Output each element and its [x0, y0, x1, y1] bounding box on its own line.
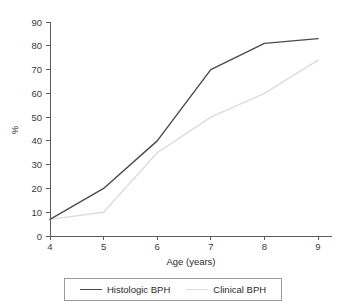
chart-container: 0102030405060708090 456789 Age (years) %…: [0, 0, 346, 307]
legend-entry[interactable]: Clinical BPH: [186, 284, 266, 295]
x-tick-label: 8: [262, 241, 267, 252]
legend-line-swatch: [80, 289, 102, 290]
x-tick-label: 7: [208, 241, 213, 252]
y-tick-label: 0: [37, 231, 42, 242]
x-tick-label: 6: [155, 241, 160, 252]
x-axis-title: Age (years): [166, 256, 215, 267]
x-tick-label: 5: [101, 241, 106, 252]
legend-label: Histologic BPH: [107, 284, 170, 295]
data-series-group: [50, 39, 318, 220]
line-chart-plot: 0102030405060708090 456789 Age (years) %: [0, 0, 346, 307]
y-axis-ticks: 0102030405060708090: [31, 17, 50, 242]
y-tick-label: 70: [31, 64, 42, 75]
x-axis-ticks: 456789: [47, 236, 320, 252]
legend-label: Clinical BPH: [213, 284, 266, 295]
y-tick-label: 40: [31, 135, 42, 146]
y-tick-label: 20: [31, 183, 42, 194]
chart-legend: Histologic BPHClinical BPH: [64, 278, 282, 301]
series-line-histologic-bph: [50, 39, 318, 220]
y-tick-label: 50: [31, 112, 42, 123]
legend-line-swatch: [186, 289, 208, 290]
y-axis-title: %: [9, 125, 20, 134]
x-tick-label: 9: [315, 241, 320, 252]
y-tick-label: 80: [31, 40, 42, 51]
x-axis: 456789: [47, 236, 332, 252]
x-tick-label: 4: [47, 241, 52, 252]
y-tick-label: 60: [31, 88, 42, 99]
y-tick-label: 30: [31, 159, 42, 170]
y-tick-label: 90: [31, 17, 42, 28]
y-tick-label: 10: [31, 207, 42, 218]
y-axis: 0102030405060708090: [31, 17, 50, 242]
legend-entry[interactable]: Histologic BPH: [80, 284, 170, 295]
